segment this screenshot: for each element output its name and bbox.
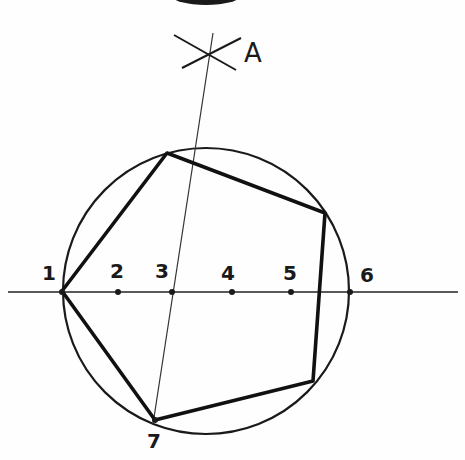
- point-6-dot: [347, 289, 353, 295]
- point-2-dot: [115, 289, 121, 295]
- compass-arc-mark-1: [174, 35, 236, 70]
- point-label-4: 4: [221, 261, 235, 285]
- point-5-dot: [288, 289, 294, 295]
- point-1-dot: [59, 289, 65, 295]
- point-label-2: 2: [110, 259, 124, 283]
- diagram-drawing: 1234567 A: [0, 0, 465, 460]
- circumscribed-circle: [63, 148, 349, 434]
- point-label-3: 3: [155, 259, 169, 283]
- pentagon-construction-diagram: 1234567 A: [0, 0, 465, 460]
- point-3-dot: [169, 289, 175, 295]
- division-points: 1234567: [42, 259, 374, 453]
- top-edge-arc: [172, 0, 240, 5]
- point-4-dot: [229, 289, 235, 295]
- point-label-a: A: [244, 38, 262, 68]
- point-label-5: 5: [283, 261, 297, 285]
- point-label-1: 1: [42, 261, 56, 285]
- point-7-dot: [152, 417, 158, 423]
- point-label-7: 7: [147, 429, 161, 453]
- point-label-6: 6: [360, 263, 374, 287]
- construction-line-a-to-7: [153, 33, 213, 424]
